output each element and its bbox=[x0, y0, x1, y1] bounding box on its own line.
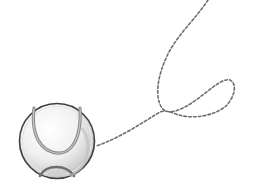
tennis-ball-icon bbox=[20, 104, 95, 179]
tennis-ball-trajectory-graphic bbox=[0, 0, 261, 191]
illustration-canvas: tennis ball with dashed motion trajector… bbox=[0, 0, 261, 191]
trajectory-path bbox=[96, 0, 234, 146]
